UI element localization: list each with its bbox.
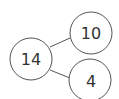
whole-circle: 14 [10,38,52,80]
connector-line-top [50,38,70,47]
part-value-top: 10 [81,24,101,43]
whole-value: 14 [21,50,41,69]
part-circle-top: 10 [70,12,112,54]
part-value-bottom: 4 [86,72,96,91]
part-circle-bottom: 4 [69,59,111,99]
connector-line-bottom [50,70,70,78]
number-bond-diagram: 14 10 4 [0,0,119,99]
